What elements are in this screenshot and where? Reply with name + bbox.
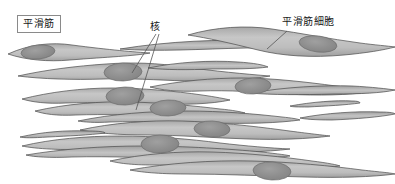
- label-smooth-muscle: 平滑筋: [17, 15, 61, 33]
- cell-13: [300, 112, 395, 120]
- cell-5: [148, 61, 268, 69]
- smooth-muscle-diagram: 平滑筋 核 平滑筋細胞: [0, 0, 395, 184]
- nucleus-8: [141, 135, 179, 154]
- cell-10: [290, 101, 360, 107]
- cell-group: [8, 27, 395, 177]
- label-nucleus: 核: [150, 21, 161, 32]
- label-smooth-muscle-cell: 平滑筋細胞: [282, 16, 335, 27]
